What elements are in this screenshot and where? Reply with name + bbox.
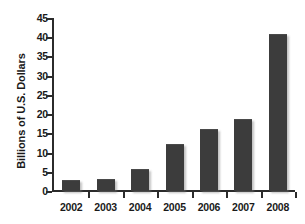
y-axis-tick-mark [46, 191, 52, 193]
bar-2003 [97, 179, 115, 191]
y-axis-tick-mark [46, 172, 52, 174]
bar-chart: Billions of U.S. Dollars 051015202530354… [0, 0, 305, 224]
y-axis-tick-label: 0 [26, 186, 48, 196]
y-axis-tick-mark [46, 18, 52, 20]
bar-2008 [269, 34, 287, 191]
y-axis-tick-mark [46, 37, 52, 39]
x-axis-tick-mark [295, 192, 297, 198]
y-axis-tick-mark [46, 76, 52, 78]
bar-2006 [200, 129, 218, 192]
bar-2004 [131, 169, 149, 191]
x-axis-tick-mark [157, 192, 159, 198]
y-axis-tick-mark [46, 153, 52, 155]
y-axis-tick-label: 45 [26, 13, 48, 23]
x-axis-tick-mark [123, 192, 125, 198]
y-axis-tick-label: 15 [26, 128, 48, 138]
y-axis-tick-label: 25 [26, 90, 48, 100]
x-axis-tick-mark [192, 192, 194, 198]
x-axis-tick-label: 2008 [258, 200, 298, 214]
y-axis-tick-label: 30 [26, 71, 48, 81]
y-axis-tick-mark [46, 133, 52, 135]
y-axis-tick-label: 35 [26, 51, 48, 61]
y-axis-tick-label: 10 [26, 148, 48, 158]
bar-2007 [234, 119, 252, 191]
y-axis-tick-label: 40 [26, 32, 48, 42]
x-axis-tick-mark [226, 192, 228, 198]
x-axis-tick-mark [88, 192, 90, 198]
y-axis-tick-label: 5 [26, 167, 48, 177]
y-axis-tick-mark [46, 95, 52, 97]
y-axis-tick-mark [46, 56, 52, 58]
bar-2005 [166, 144, 184, 191]
x-axis-tick-labels: 2002200320042005200620072008 [54, 200, 295, 216]
bar-2002 [62, 180, 80, 191]
y-axis-tick-labels: 051015202530354045 [26, 12, 48, 198]
x-axis-tick-mark [261, 192, 263, 198]
y-axis-tick-mark [46, 114, 52, 116]
plot-area [54, 18, 295, 191]
y-axis-tick-label: 20 [26, 109, 48, 119]
